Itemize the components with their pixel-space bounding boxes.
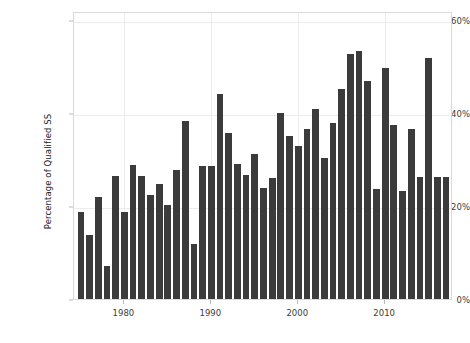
bar bbox=[217, 94, 224, 299]
bar bbox=[243, 175, 250, 299]
bar bbox=[417, 177, 424, 299]
bar bbox=[260, 188, 267, 299]
bar bbox=[408, 129, 415, 299]
x-axis-tick-label: 2010 bbox=[373, 308, 395, 318]
bar bbox=[121, 212, 128, 299]
bar bbox=[234, 164, 241, 299]
x-axis-tick-label: 1990 bbox=[200, 308, 222, 318]
bar bbox=[173, 170, 180, 299]
plot-area bbox=[73, 12, 452, 300]
bar bbox=[390, 125, 397, 299]
bar bbox=[364, 81, 371, 299]
bar bbox=[356, 51, 363, 299]
bar bbox=[443, 177, 450, 299]
bar bbox=[104, 266, 111, 299]
bar bbox=[434, 177, 441, 299]
bar bbox=[156, 184, 163, 299]
x-axis-tick-mark bbox=[384, 300, 385, 304]
bar bbox=[199, 166, 206, 299]
y-axis-title: Percentage of Qualified SS bbox=[36, 0, 60, 343]
bar bbox=[425, 58, 432, 299]
bar bbox=[338, 89, 345, 299]
bar bbox=[347, 54, 354, 299]
bar bbox=[269, 178, 276, 299]
bar bbox=[321, 158, 328, 299]
bar bbox=[95, 197, 102, 299]
bar bbox=[208, 166, 215, 299]
bar bbox=[78, 212, 85, 299]
x-axis-tick-mark bbox=[297, 300, 298, 304]
bar bbox=[182, 121, 189, 299]
bar bbox=[130, 165, 137, 299]
x-axis-tick-label: 2000 bbox=[286, 308, 308, 318]
bar bbox=[147, 195, 154, 299]
bar bbox=[86, 235, 93, 299]
x-axis-tick-label: 1980 bbox=[113, 308, 135, 318]
bar bbox=[286, 136, 293, 300]
x-axis-tick-mark bbox=[210, 300, 211, 304]
bar bbox=[225, 133, 232, 299]
bar bbox=[312, 109, 319, 299]
bar bbox=[399, 191, 406, 299]
bar bbox=[277, 113, 284, 299]
chart-figure: Percentage of Qualified SS 0%20%40%60% 1… bbox=[0, 0, 470, 343]
bar bbox=[304, 129, 311, 299]
bar bbox=[112, 176, 119, 299]
bar bbox=[138, 176, 145, 299]
bar bbox=[164, 205, 171, 299]
bar bbox=[330, 123, 337, 299]
bar bbox=[251, 154, 258, 299]
bar bbox=[382, 68, 389, 299]
x-axis-tick-mark bbox=[123, 300, 124, 304]
bar bbox=[373, 189, 380, 299]
bar bbox=[295, 146, 302, 299]
bar bbox=[191, 244, 198, 299]
bar-series bbox=[74, 13, 451, 299]
